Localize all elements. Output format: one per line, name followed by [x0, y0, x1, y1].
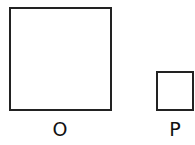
square-p: [156, 71, 194, 111]
label-p: P: [165, 120, 185, 139]
square-o: [9, 7, 112, 111]
label-o: O: [50, 120, 70, 139]
